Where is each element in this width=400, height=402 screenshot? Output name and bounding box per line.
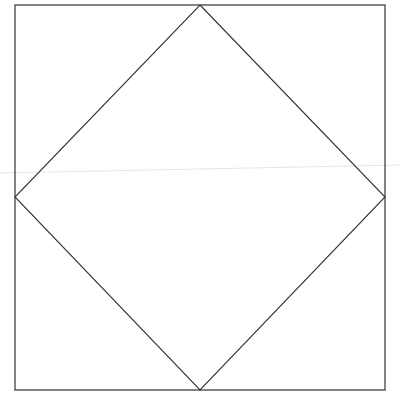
outer-square: [15, 5, 385, 390]
inscribed-diamond: [15, 5, 385, 390]
scan-artifact-line: [0, 165, 400, 173]
diagram-canvas: [0, 0, 400, 402]
diagram-svg: [0, 0, 400, 402]
